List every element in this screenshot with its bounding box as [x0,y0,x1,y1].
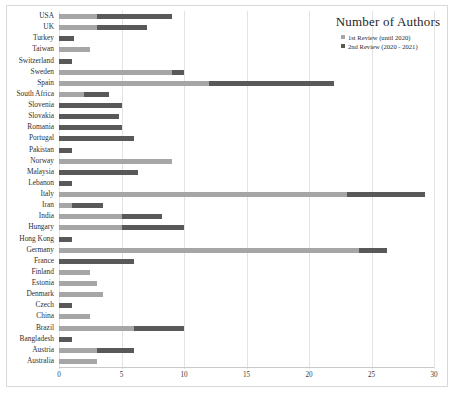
category-label: Germany [27,244,55,255]
bar-row: Austria [59,345,434,356]
x-tick-label: 10 [180,371,187,379]
bar-segment-2nd-review[interactable] [134,326,184,331]
bar-row: India [59,211,434,222]
bar-segment-1st-review[interactable] [59,92,84,97]
bar-segment-1st-review[interactable] [59,314,90,319]
bar-segment-1st-review[interactable] [59,225,122,230]
legend-label-2nd-review: 2nd Review (2020 - 2021) [348,43,418,50]
bar-segment-2nd-review[interactable] [172,70,185,75]
bar-segment-2nd-review[interactable] [59,148,72,153]
bar-segment-2nd-review[interactable] [209,81,334,86]
bar-segment-2nd-review[interactable] [72,203,103,208]
bar-row: Germany [59,245,434,256]
bar-segment-1st-review[interactable] [59,192,347,197]
bar-row: Norway [59,156,434,167]
bar-segment-2nd-review[interactable] [97,25,147,30]
bar-segment-2nd-review[interactable] [59,170,138,175]
legend-title: Number of Authors [327,14,449,30]
category-label: Italy [40,188,54,199]
category-label: Hong Kong [19,233,54,244]
bar-segment-2nd-review[interactable] [59,59,72,64]
bar-segment-2nd-review[interactable] [59,237,72,242]
bar-row: Romania [59,122,434,133]
bar-row: Portugal [59,133,434,144]
legend-label-1st-review: 1st Review (until 2020) [348,34,410,41]
bar-segment-1st-review[interactable] [59,270,90,275]
bar-row: Estonia [59,278,434,289]
legend-swatch-icon-1st-review [341,35,345,39]
bar-row: Finland [59,267,434,278]
bar-segment-2nd-review[interactable] [97,348,135,353]
category-label: China [36,310,54,321]
bar-row: Slovenia [59,100,434,111]
bar-segment-2nd-review[interactable] [122,225,185,230]
bar-row: Malaysia [59,167,434,178]
bar-segment-2nd-review[interactable] [97,14,172,19]
category-label: Bangladesh [20,333,54,344]
category-label: Slovenia [28,99,54,110]
bar-segment-2nd-review[interactable] [84,92,109,97]
bar-segment-2nd-review[interactable] [59,181,72,186]
bar-row: Spain [59,78,434,89]
bar-segment-2nd-review[interactable] [59,337,72,342]
bar-row: Brazil [59,323,434,334]
bar-segment-1st-review[interactable] [59,214,122,219]
category-label: South Africa [16,88,54,99]
bar-row: Sweden [59,67,434,78]
bar-row: Hong Kong [59,234,434,245]
bar-segment-1st-review[interactable] [59,326,134,331]
bar-segment-1st-review[interactable] [59,348,97,353]
bar-segment-2nd-review[interactable] [59,36,74,41]
x-tick-label: 20 [305,371,312,379]
bar-segment-2nd-review[interactable] [59,303,72,308]
bar-row: Switzerland [59,56,434,67]
bar-segment-1st-review[interactable] [59,248,359,253]
bar-segment-2nd-review[interactable] [347,192,426,197]
chart-legend: Number of Authors 1st Review (until 2020… [327,14,449,51]
bar-row: Slovakia [59,111,434,122]
category-label: Brazil [36,322,54,333]
x-tick-label: 30 [430,371,437,379]
bar-segment-2nd-review[interactable] [59,259,134,264]
category-label: Hungary [28,221,54,232]
bar-segment-1st-review[interactable] [59,25,97,30]
category-label: Norway [30,155,54,166]
bar-segment-1st-review[interactable] [59,70,172,75]
bar-segment-1st-review[interactable] [59,14,97,19]
category-label: USA [39,10,54,21]
bar-segment-2nd-review[interactable] [359,248,387,253]
category-label: Pakistan [29,144,54,155]
category-label: Switzerland [19,55,54,66]
bar-segment-1st-review[interactable] [59,203,72,208]
category-label: Estonia [32,277,54,288]
bar-segment-2nd-review[interactable] [59,103,122,108]
bar-row: South Africa [59,89,434,100]
bar-segment-1st-review[interactable] [59,281,97,286]
bar-segment-2nd-review[interactable] [59,136,134,141]
category-label: Denmark [27,288,55,299]
bar-segment-1st-review[interactable] [59,292,103,297]
category-label: UK [43,21,54,32]
bar-segment-1st-review[interactable] [59,47,90,52]
bar-segment-2nd-review[interactable] [59,114,119,119]
bar-segment-1st-review[interactable] [59,159,172,164]
bar-segment-1st-review[interactable] [59,359,97,364]
bar-row: France [59,256,434,267]
category-label: Slovakia [28,110,54,121]
bar-row: Italy [59,189,434,200]
category-label: Portugal [29,132,54,143]
category-label: Austria [32,344,54,355]
category-label: Australia [27,355,54,366]
category-label: Taiwan [32,43,54,54]
bar-segment-2nd-review[interactable] [122,214,162,219]
bar-segment-1st-review[interactable] [59,81,209,86]
gridline-30 [434,11,435,369]
bar-segment-2nd-review[interactable] [59,125,122,130]
legend-item-2nd-review: 2nd Review (2020 - 2021) [327,42,449,51]
bar-rows: USAUKTurkeyTaiwanSwitzerlandSwedenSpainS… [59,11,434,369]
legend-item-1st-review: 1st Review (until 2020) [327,33,449,42]
chart-container: USAUKTurkeyTaiwanSwitzerlandSwedenSpainS… [6,5,448,387]
bar-row: China [59,311,434,322]
legend-swatch-icon-2nd-review [341,44,345,48]
bar-row: Australia [59,356,434,367]
